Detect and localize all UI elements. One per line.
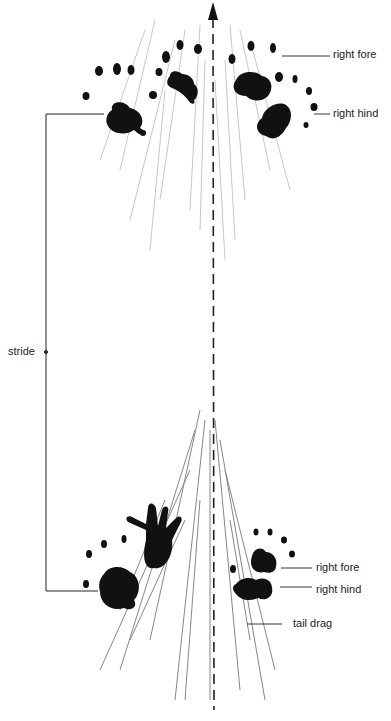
bottom-right-prints — [230, 529, 295, 601]
label-top-right-fore: right fore — [333, 48, 376, 60]
label-bottom-right-hind: right hind — [316, 583, 361, 595]
bottom-left-prints — [83, 504, 182, 610]
top-left-prints — [83, 63, 158, 136]
label-tail-drag: tail drag — [293, 617, 332, 629]
label-top-right-hind: right hind — [333, 107, 378, 119]
ground-streaks-bottom — [100, 410, 275, 700]
stride-bracket — [45, 114, 105, 591]
leader-lines — [247, 56, 330, 624]
ground-streaks-top — [100, 20, 290, 260]
label-bottom-right-fore: right fore — [316, 561, 359, 573]
label-stride: stride — [8, 345, 35, 357]
